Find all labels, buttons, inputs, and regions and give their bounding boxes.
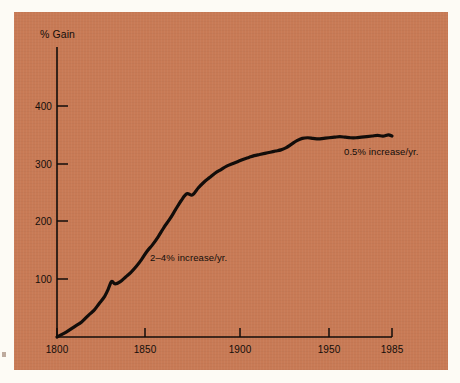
y-axis-ticks [57, 106, 68, 279]
x-tick-label-1900: 1900 [220, 344, 260, 355]
x-tick-label-1950: 1950 [309, 344, 349, 355]
x-tick-label-1985: 1985 [372, 344, 412, 355]
y-tick-label-200: 200 [22, 216, 52, 227]
x-tick-label-1800: 1800 [37, 344, 77, 355]
x-axis-ticks [57, 328, 392, 337]
x-tick-label-1850: 1850 [125, 344, 165, 355]
chart-figure: % Gain 400 300 200 100 1800 1850 1900 19… [0, 0, 460, 383]
data-series-line [57, 135, 392, 337]
plateau-growth-annotation: 0.5% increase/yr. [344, 146, 419, 157]
y-tick-label-300: 300 [22, 159, 52, 170]
y-tick-label-400: 400 [22, 101, 52, 112]
y-axis-title: % Gain [40, 29, 75, 40]
chart-plot-area [0, 0, 460, 383]
slow-growth-annotation: 2–4% increase/yr. [150, 252, 227, 263]
y-tick-label-100: 100 [22, 274, 52, 285]
